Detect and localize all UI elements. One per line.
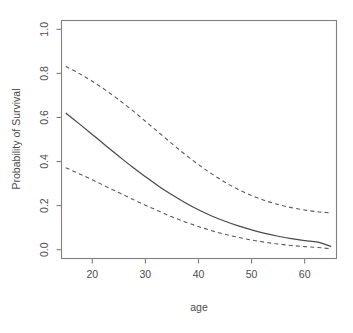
y-tick-label: 0.0: [38, 242, 50, 257]
confidence-band-line: [66, 168, 331, 249]
x-tick-label: 50: [246, 268, 258, 280]
x-axis-tick-marks: [92, 259, 304, 264]
y-axis-tick-labels: 0.00.20.40.60.81.0: [38, 22, 50, 257]
chart-figure: 0.00.20.40.60.81.0 2030405060 age Probab…: [0, 0, 353, 333]
x-tick-label: 40: [193, 268, 205, 280]
y-tick-label: 0.8: [38, 66, 50, 81]
data-series-group: [66, 66, 331, 248]
plot-canvas: 0.00.20.40.60.81.0 2030405060 age Probab…: [0, 0, 353, 333]
x-axis-tick-labels: 2030405060: [86, 268, 310, 280]
plot-box-border: [62, 21, 337, 259]
y-tick-label: 0.2: [38, 198, 50, 213]
y-tick-label: 0.6: [38, 110, 50, 125]
x-tick-label: 60: [299, 268, 311, 280]
y-axis-title: Probability of Survival: [10, 89, 22, 190]
x-tick-label: 30: [140, 268, 152, 280]
y-axis-tick-marks: [57, 29, 62, 249]
y-tick-label: 1.0: [38, 22, 50, 37]
y-tick-label: 0.4: [38, 154, 50, 169]
x-tick-label: 20: [86, 268, 98, 280]
x-axis-title: age: [190, 301, 208, 313]
confidence-band-line: [66, 66, 331, 213]
